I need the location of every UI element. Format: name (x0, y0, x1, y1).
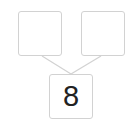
number-bond-diagram: 8 (0, 0, 130, 131)
whole-value: 8 (63, 82, 79, 111)
connector-right (71, 56, 101, 74)
part-box-right[interactable] (81, 11, 125, 56)
part-box-left[interactable] (18, 11, 62, 56)
connector-left (42, 56, 71, 74)
whole-box: 8 (49, 74, 93, 119)
